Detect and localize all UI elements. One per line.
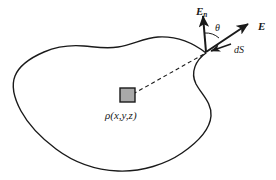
- theta-arc: [205, 33, 219, 38]
- figure-canvas: En E dS θ ρ(x,y,z): [0, 0, 276, 180]
- label-field-vector: E: [257, 20, 265, 32]
- label-normal-vector: En: [195, 5, 207, 19]
- gauss-law-diagram: En E dS θ ρ(x,y,z): [0, 0, 276, 180]
- label-charge-density: ρ(x,y,z): [104, 109, 137, 122]
- gaussian-surface-outline: [13, 37, 211, 171]
- label-theta-angle: θ: [215, 22, 220, 33]
- label-area-element: dS: [234, 44, 244, 55]
- normal-vector-arrow: [203, 16, 206, 52]
- charge-element-square: [120, 88, 135, 102]
